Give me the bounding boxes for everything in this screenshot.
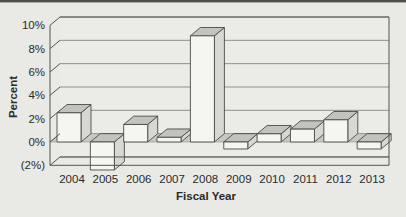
xtick-label-2012: 2012 [326, 173, 352, 185]
ytick-label-10%: 10% [22, 19, 45, 31]
bar-front-face [124, 124, 148, 141]
xtick-label-2006: 2006 [126, 173, 152, 185]
y-axis-title: Percent [7, 76, 19, 118]
ytick-label-6%: 6% [28, 66, 45, 78]
bar-2005 [90, 134, 124, 170]
ytick-label-4%: 4% [28, 89, 45, 101]
ytick-label-8%: 8% [28, 43, 45, 55]
xtick-label-2009: 2009 [226, 173, 252, 185]
ytick-label-(2%): (2%) [21, 159, 45, 171]
bar-2012 [324, 111, 358, 141]
fiscal-year-percent-chart: 10%8%6%4%2%0%(2%) 2004200520062007200820… [0, 0, 406, 217]
bar-front-face [190, 36, 214, 142]
bar-side-face [214, 27, 224, 141]
bar-front-face [224, 142, 248, 149]
bar-2006 [124, 116, 158, 142]
xtick-label-2010: 2010 [259, 173, 285, 185]
xtick-label-2008: 2008 [193, 173, 219, 185]
bar-2008 [190, 27, 224, 141]
top-border-rule [0, 0, 406, 2]
xtick-label-2005: 2005 [93, 173, 119, 185]
bar-front-face [57, 113, 81, 142]
xtick-label-2007: 2007 [159, 173, 185, 185]
bar-front-face [324, 120, 348, 142]
xtick-label-2011: 2011 [293, 173, 318, 185]
ytick-label-2%: 2% [28, 113, 45, 125]
x-axis-title: Fiscal Year [176, 190, 236, 202]
xtick-label-2004: 2004 [59, 173, 85, 185]
xtick-label-2013: 2013 [359, 173, 385, 185]
bar-2004 [57, 104, 91, 141]
bar-front-face [357, 142, 381, 149]
bar-front-face [157, 137, 181, 142]
chart-canvas: 10%8%6%4%2%0%(2%) 2004200520062007200820… [0, 0, 406, 217]
ytick-label-0%: 0% [28, 136, 45, 148]
bar-front-face [290, 129, 314, 142]
bar-front-face [257, 134, 281, 142]
